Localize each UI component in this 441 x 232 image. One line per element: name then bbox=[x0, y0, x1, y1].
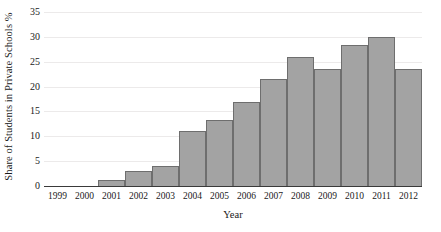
x-axis-line bbox=[44, 186, 422, 187]
bar bbox=[125, 171, 152, 186]
bar bbox=[152, 166, 179, 186]
x-tick-label: 2009 bbox=[314, 190, 341, 202]
x-tick-label: 2000 bbox=[71, 190, 98, 202]
bar bbox=[260, 79, 287, 186]
y-axis-tick-labels: 05101520253035 bbox=[14, 0, 40, 192]
x-tick-label: 2008 bbox=[287, 190, 314, 202]
bar bbox=[341, 45, 368, 186]
bar-slot bbox=[152, 12, 179, 186]
x-tick-label: 2005 bbox=[206, 190, 233, 202]
bar bbox=[314, 69, 341, 186]
bar-slot bbox=[125, 12, 152, 186]
y-tick-label: 25 bbox=[18, 57, 40, 67]
bar bbox=[395, 69, 422, 186]
bar-slot bbox=[179, 12, 206, 186]
y-tick-label: 20 bbox=[18, 82, 40, 92]
bar bbox=[233, 102, 260, 186]
bar-series bbox=[44, 12, 422, 186]
bar bbox=[179, 131, 206, 186]
bar-slot bbox=[314, 12, 341, 186]
x-tick-label: 2012 bbox=[395, 190, 422, 202]
bar-slot bbox=[233, 12, 260, 186]
y-tick-label: 0 bbox=[18, 181, 40, 191]
plot-area bbox=[44, 12, 422, 187]
bar-slot bbox=[287, 12, 314, 186]
bar bbox=[287, 57, 314, 186]
y-tick-label: 15 bbox=[18, 106, 40, 116]
y-axis-title-text: Share of Students in Private Schools % bbox=[3, 12, 14, 180]
bar bbox=[206, 120, 233, 186]
bar-slot bbox=[44, 12, 71, 186]
bar-slot bbox=[98, 12, 125, 186]
x-tick-label: 2004 bbox=[179, 190, 206, 202]
y-tick-label: 5 bbox=[18, 156, 40, 166]
x-tick-label: 2010 bbox=[341, 190, 368, 202]
x-axis-tick-labels: 1999200020012002200320042005200620072008… bbox=[44, 190, 422, 202]
bar-slot bbox=[341, 12, 368, 186]
y-tick-label: 35 bbox=[18, 7, 40, 17]
bar-slot bbox=[206, 12, 233, 186]
x-tick-label: 2007 bbox=[260, 190, 287, 202]
x-tick-label: 2001 bbox=[98, 190, 125, 202]
x-tick-label: 2006 bbox=[233, 190, 260, 202]
x-tick-label: 2002 bbox=[125, 190, 152, 202]
bar-slot bbox=[260, 12, 287, 186]
y-tick-label: 30 bbox=[18, 32, 40, 42]
x-axis-title: Year bbox=[44, 209, 422, 220]
x-tick-label: 2003 bbox=[152, 190, 179, 202]
bar-chart: Share of Students in Private Schools % 0… bbox=[0, 0, 441, 232]
bar bbox=[368, 37, 395, 186]
x-tick-label: 2011 bbox=[368, 190, 395, 202]
bar-slot bbox=[395, 12, 422, 186]
bar-slot bbox=[368, 12, 395, 186]
bar-slot bbox=[71, 12, 98, 186]
x-tick-label: 1999 bbox=[44, 190, 71, 202]
y-tick-label: 10 bbox=[18, 131, 40, 141]
